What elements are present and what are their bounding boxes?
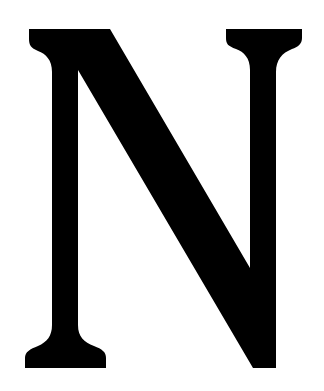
letter-n-icon bbox=[0, 0, 324, 391]
letter-n-glyph: N bbox=[0, 0, 324, 391]
